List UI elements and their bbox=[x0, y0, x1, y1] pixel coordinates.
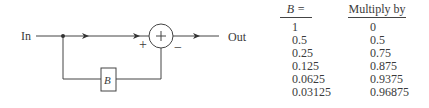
minus-sign-label: − bbox=[174, 42, 182, 54]
table-cell-b: 1 bbox=[292, 21, 298, 33]
table-cell-b: 0.0625 bbox=[292, 73, 325, 85]
table-cell-multiply: 0.9375 bbox=[370, 73, 403, 85]
feedback-path-right bbox=[116, 48, 161, 79]
table-header-b: B = bbox=[280, 2, 312, 18]
plus-sign-label: + bbox=[139, 39, 147, 51]
table-cell-b: 0.25 bbox=[292, 47, 313, 59]
table-header-multiply: Multiply by bbox=[348, 2, 406, 18]
input-label: In bbox=[21, 30, 31, 42]
output-label: Out bbox=[228, 31, 246, 43]
table-cell-multiply: 0.875 bbox=[370, 60, 397, 72]
table-cell-b: 0.5 bbox=[292, 34, 307, 46]
table-cell-multiply: 0.5 bbox=[370, 34, 385, 46]
feedback-block-text: B bbox=[104, 74, 111, 86]
block-diagram bbox=[0, 0, 270, 108]
table-column-b: B = bbox=[280, 2, 312, 18]
table-cell-multiply: 0 bbox=[370, 21, 376, 33]
table-cell-b: 0.03125 bbox=[292, 86, 331, 98]
table-cell-multiply: 0.75 bbox=[370, 47, 391, 59]
feedback-block-label: B bbox=[104, 74, 111, 86]
branch-point-dot bbox=[61, 34, 65, 38]
feedback-path-left bbox=[63, 36, 101, 79]
table-column-multiply: Multiply by bbox=[348, 2, 406, 18]
table-cell-multiply: 0.96875 bbox=[370, 86, 409, 98]
table-cell-b: 0.125 bbox=[292, 60, 319, 72]
